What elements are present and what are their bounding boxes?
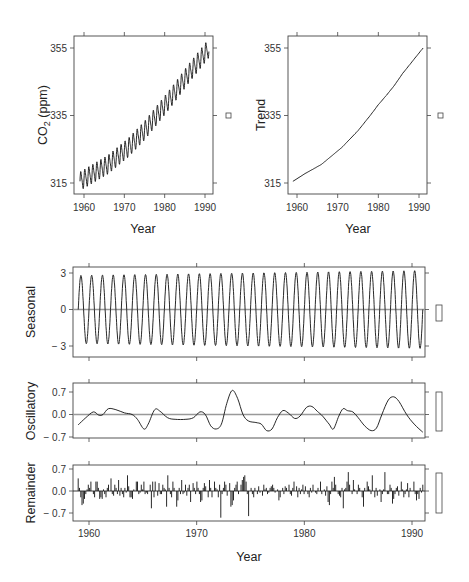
- y-tick-label: 0.7: [52, 464, 66, 475]
- x-tick-label: 1990: [194, 202, 217, 213]
- y-tick-label: − 0.7: [43, 432, 66, 443]
- y-tick-label: 0.0: [52, 486, 66, 497]
- trend-x-axis-title: Year: [345, 222, 370, 236]
- co2-panel: 1960197019801990315335355: [50, 32, 231, 213]
- oscillatory-panel: − 0.70.00.7: [43, 379, 442, 443]
- y-tick-label: 3: [60, 268, 66, 279]
- range-indicator-box: [438, 113, 443, 118]
- y-tick-label: − 0.7: [43, 508, 66, 519]
- remainder-axis-title: Remainder: [24, 462, 38, 523]
- x-tick-label: 1970: [327, 202, 350, 213]
- plot-frame: [74, 36, 213, 194]
- x-tick-label: 1980: [293, 528, 316, 539]
- trend-axis-title: Trend: [254, 99, 268, 131]
- x-tick-label: 1970: [186, 528, 209, 539]
- trend-panel: 1960197019801990315335355: [264, 32, 443, 213]
- y-tick-label: 315: [264, 178, 281, 189]
- x-tick-label: 1960: [286, 202, 309, 213]
- x-tick-label: 1980: [154, 202, 177, 213]
- co2-axis-title: CO2 (ppm): [36, 85, 52, 145]
- y-tick-label: 355: [50, 43, 67, 54]
- stl-decomposition-figure: 1960197019801990315335355 19601970198019…: [0, 0, 469, 582]
- y-tick-label: 0.0: [52, 409, 66, 420]
- plot-frame: [288, 36, 427, 194]
- y-tick-label: 355: [264, 43, 281, 54]
- x-tick-label: 1980: [367, 202, 390, 213]
- range-indicator-box: [226, 113, 231, 118]
- oscillatory-line: [78, 390, 423, 432]
- trend-line: [293, 48, 423, 181]
- y-tick-label: − 3: [52, 341, 67, 352]
- y-tick-label: 315: [50, 178, 67, 189]
- x-tick-label: 1970: [113, 202, 136, 213]
- bottom-x-axis-title: Year: [236, 550, 261, 564]
- plot-frame: [73, 267, 425, 357]
- y-tick-label: 0: [60, 304, 66, 315]
- seasonal-axis-title: Seasonal: [24, 286, 38, 338]
- x-tick-label: 1960: [78, 528, 101, 539]
- co2-series-line: [80, 43, 209, 189]
- remainder-panel: 1960197019801990− 0.70.00.7: [43, 461, 442, 539]
- plot-frame: [73, 383, 425, 438]
- y-tick-label: 335: [50, 110, 67, 121]
- y-tick-label: 0.7: [52, 387, 66, 398]
- oscillatory-axis-title: Oscillatory: [24, 381, 38, 440]
- seasonal-panel: − 303: [52, 263, 442, 361]
- x-tick-label: 1990: [401, 528, 424, 539]
- x-tick-label: 1990: [408, 202, 431, 213]
- range-indicator-box: [436, 473, 442, 513]
- range-indicator-box: [436, 392, 442, 431]
- range-indicator-box: [436, 305, 442, 321]
- x-tick-label: 1960: [73, 202, 96, 213]
- co2-x-axis-title: Year: [130, 222, 155, 236]
